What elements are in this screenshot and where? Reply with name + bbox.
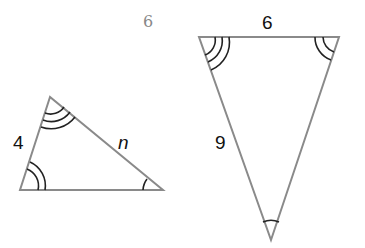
stray-label: 6 (143, 14, 153, 30)
triangles-drawing (0, 0, 365, 248)
left-triangle (20, 97, 163, 190)
top-side-label: 6 (262, 13, 273, 32)
right-side-label-n: n (118, 133, 129, 152)
left-bottom-right-angle-marks (143, 179, 147, 190)
similar-triangles-figure: 6 4 n 6 9 (0, 0, 365, 248)
left-bottom-left-angle-marks (27, 162, 45, 190)
long-side-label: 9 (215, 133, 226, 152)
right-bottom-angle-marks (263, 220, 279, 222)
left-side-label: 4 (13, 133, 24, 152)
right-top-right-angle-marks (315, 37, 334, 60)
